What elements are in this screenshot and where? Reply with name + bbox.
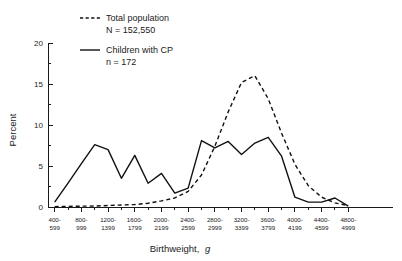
chart-series	[55, 76, 349, 207]
x-tick-label-bottom: 2599	[181, 224, 195, 231]
chart-legend: Total population N = 152,550 Children wi…	[80, 13, 173, 67]
y-tick-label: 20	[34, 39, 43, 48]
x-tick-label-bottom: 2999	[208, 224, 222, 231]
legend-sublabel-total-population: N = 152,550	[106, 25, 155, 35]
x-tick-label-top: 800-	[75, 216, 87, 223]
x-tick-label-bottom: 2199	[155, 224, 169, 231]
x-tick-label-bottom: 4599	[315, 224, 329, 231]
x-tick-label-bottom: 4199	[288, 224, 302, 231]
y-axis-label: Percent	[7, 113, 18, 146]
x-tick-label-bottom: 599	[50, 224, 61, 231]
chart-axes	[48, 43, 393, 207]
x-tick-label-top: 1600-	[127, 216, 143, 223]
y-tick-label: 15	[34, 80, 43, 89]
x-tick-label-bottom: 3399	[235, 224, 249, 231]
series-line-children-with-cp	[55, 137, 349, 206]
legend-sublabel-children-with-cp: n = 172	[106, 57, 136, 67]
x-tick-label-bottom: 1799	[128, 224, 142, 231]
x-tick-label-bottom: 4999	[341, 224, 355, 231]
x-tick-label-top: 2000-	[154, 216, 170, 223]
x-tick-label-bottom: 999	[76, 224, 87, 231]
x-axis-label: Birthweight, g	[150, 243, 211, 254]
legend-label-children-with-cp: Children with CP	[106, 45, 173, 55]
y-tick-label: 10	[34, 121, 43, 130]
x-tick-label-top: 1200-	[100, 216, 116, 223]
x-tick-label-top: 3200-	[234, 216, 250, 223]
x-axis-tick-labels: 400-599800-9991200-13991600-17992000-219…	[48, 216, 356, 231]
x-tick-label-top: 2400-	[180, 216, 196, 223]
x-axis-label-plain: Birthweight,	[150, 243, 200, 254]
legend-label-total-population: Total population	[106, 13, 169, 23]
x-axis-ticks	[55, 207, 349, 212]
x-tick-label-top: 400-	[48, 216, 60, 223]
x-tick-label-top: 4400-	[314, 216, 330, 223]
y-tick-label: 5	[39, 162, 44, 171]
x-tick-label-bottom: 3799	[261, 224, 275, 231]
x-tick-label-bottom: 1399	[101, 224, 115, 231]
chart-figure: Total population N = 152,550 Children wi…	[0, 0, 402, 261]
x-tick-label-top: 4800-	[340, 216, 356, 223]
x-tick-label-top: 3600-	[260, 216, 276, 223]
y-tick-label: 0	[39, 203, 44, 212]
x-tick-label-top: 4000-	[287, 216, 303, 223]
birthweight-distribution-chart: Total population N = 152,550 Children wi…	[0, 0, 402, 261]
y-axis-ticks: 05101520	[34, 39, 53, 212]
x-axis-label-unit: g	[205, 243, 211, 254]
x-tick-label-top: 2800-	[207, 216, 223, 223]
